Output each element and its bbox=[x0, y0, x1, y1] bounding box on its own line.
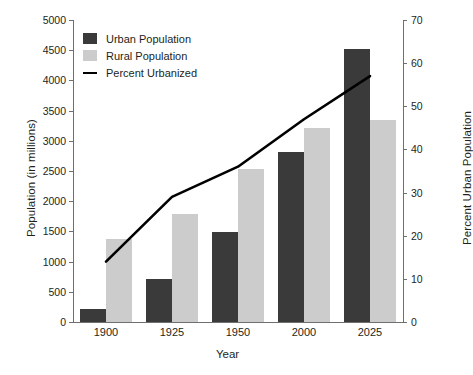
bar-rural-population-1925 bbox=[172, 214, 198, 322]
x-axis-title: Year bbox=[0, 348, 455, 360]
y-axis-right-tick-label: 40 bbox=[403, 144, 461, 154]
bar-urban-population-1925 bbox=[146, 279, 172, 322]
chart-legend: Urban PopulationRural PopulationPercent … bbox=[83, 30, 197, 81]
bar-urban-population-2000 bbox=[278, 152, 304, 322]
x-axis-tick-label-2025: 2025 bbox=[335, 326, 405, 338]
y-axis-left-tick-label: 2500 bbox=[6, 166, 73, 176]
legend-label: Urban Population bbox=[106, 33, 191, 45]
legend-item-urban[interactable]: Urban Population bbox=[83, 30, 197, 47]
y-axis-left-tick-label: 4500 bbox=[6, 45, 73, 55]
x-axis-tick-label-2000: 2000 bbox=[269, 326, 339, 338]
y-axis-right-tick-mark bbox=[403, 149, 407, 150]
y-axis-right-tick-mark bbox=[403, 106, 407, 107]
x-axis-tick-label-1950: 1950 bbox=[203, 326, 273, 338]
bar-rural-population-2000 bbox=[304, 128, 330, 322]
y-axis-left-tick-mark bbox=[69, 262, 73, 263]
y-axis-right-tick-label: 70 bbox=[403, 15, 461, 25]
y-axis-left-tick-label: 1500 bbox=[6, 226, 73, 236]
y-axis-right-tick-label: 60 bbox=[403, 58, 461, 68]
y-axis-right-tick-mark bbox=[403, 63, 407, 64]
x-axis-tick-label-1925: 1925 bbox=[137, 326, 207, 338]
y-axis-right-tick-mark bbox=[403, 193, 407, 194]
legend-label: Rural Population bbox=[106, 50, 187, 62]
y-axis-right-tick-label: 0 bbox=[403, 317, 461, 327]
legend-label: Percent Urbanized bbox=[106, 67, 197, 79]
y-axis-right-tick-label: 10 bbox=[403, 274, 461, 284]
y-axis-left-tick-mark bbox=[69, 322, 73, 323]
y-axis-left-tick-label: 5000 bbox=[6, 15, 73, 25]
y-axis-right-tick-label: 30 bbox=[403, 188, 461, 198]
y-axis-right-tick-mark bbox=[403, 20, 407, 21]
bar-rural-population-1950 bbox=[238, 169, 264, 322]
y-axis-right-tick-label: 20 bbox=[403, 231, 461, 241]
bar-rural-population-2025 bbox=[370, 120, 396, 322]
y-axis-left-tick-mark bbox=[69, 50, 73, 51]
y-axis-left-tick-label: 500 bbox=[6, 287, 73, 297]
y-axis-left-tick-mark bbox=[69, 80, 73, 81]
x-axis-line bbox=[73, 322, 404, 323]
y-axis-left-tick-mark bbox=[69, 171, 73, 172]
y-axis-left-tick-mark bbox=[69, 111, 73, 112]
legend-item-line[interactable]: Percent Urbanized bbox=[83, 64, 197, 81]
y-axis-right-tick-label: 50 bbox=[403, 101, 461, 111]
y-axis-left-tick-label: 4000 bbox=[6, 75, 73, 85]
y-axis-left-tick-label: 3500 bbox=[6, 106, 73, 116]
y-axis-right-title: Percent Urban Population bbox=[461, 53, 473, 303]
y-axis-left-tick-mark bbox=[69, 20, 73, 21]
y-axis-right-tick-mark bbox=[403, 236, 407, 237]
y-axis-left-tick-mark bbox=[69, 141, 73, 142]
bar-rural-population-1900 bbox=[106, 239, 132, 322]
y-axis-right-tick-mark bbox=[403, 322, 407, 323]
legend-swatch-rural-icon bbox=[83, 50, 97, 61]
legend-item-rural[interactable]: Rural Population bbox=[83, 47, 197, 64]
x-axis-tick-label-1900: 1900 bbox=[71, 326, 141, 338]
y-axis-left-tick-label: 2000 bbox=[6, 196, 73, 206]
y-axis-left-tick-mark bbox=[69, 201, 73, 202]
bar-urban-population-2025 bbox=[344, 49, 370, 322]
bar-urban-population-1900 bbox=[80, 309, 106, 322]
y-axis-left-tick-label: 1000 bbox=[6, 257, 73, 267]
y-axis-left-tick-label: 0 bbox=[6, 317, 73, 327]
y-axis-left-tick-mark bbox=[69, 231, 73, 232]
y-axis-left-tick-label: 3000 bbox=[6, 136, 73, 146]
bar-urban-population-1950 bbox=[212, 232, 238, 322]
legend-swatch-urban-icon bbox=[83, 33, 97, 44]
y-axis-right-tick-mark bbox=[403, 279, 407, 280]
legend-swatch-line-icon bbox=[83, 67, 97, 78]
y-axis-left-tick-mark bbox=[69, 292, 73, 293]
